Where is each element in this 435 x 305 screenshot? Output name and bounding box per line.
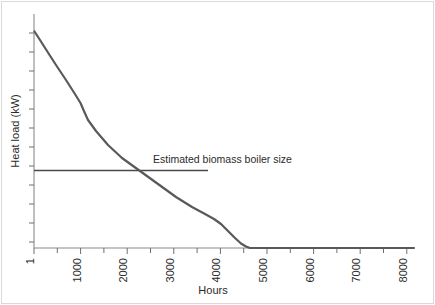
heat-load-duration-curve bbox=[35, 32, 415, 249]
y-axis-title: Heat load (kW) bbox=[9, 94, 21, 167]
chart-figure: 1 1000 2000 3000 4000 5000 6000 7000 800… bbox=[0, 0, 435, 305]
x-axis-title: Hours bbox=[198, 284, 228, 296]
x-tick-label-7: 7000 bbox=[350, 258, 362, 282]
y-axis-ticks bbox=[29, 33, 34, 242]
x-tick-label-0: 1 bbox=[24, 258, 36, 264]
boiler-size-annotation-label: Estimated biomass boiler size bbox=[153, 153, 292, 165]
x-tick-label-8: 8000 bbox=[397, 258, 409, 282]
x-tick-label-5: 5000 bbox=[257, 258, 269, 282]
x-axis-tick-labels: 1 1000 2000 3000 4000 5000 6000 7000 800… bbox=[24, 258, 409, 282]
x-tick-label-4: 4000 bbox=[210, 258, 222, 282]
chart-plot-area: 1 1000 2000 3000 4000 5000 6000 7000 800… bbox=[0, 0, 435, 305]
x-tick-label-1: 1000 bbox=[71, 258, 83, 282]
x-tick-label-6: 6000 bbox=[304, 258, 316, 282]
x-tick-label-2: 2000 bbox=[117, 258, 129, 282]
x-tick-label-3: 3000 bbox=[164, 258, 176, 282]
